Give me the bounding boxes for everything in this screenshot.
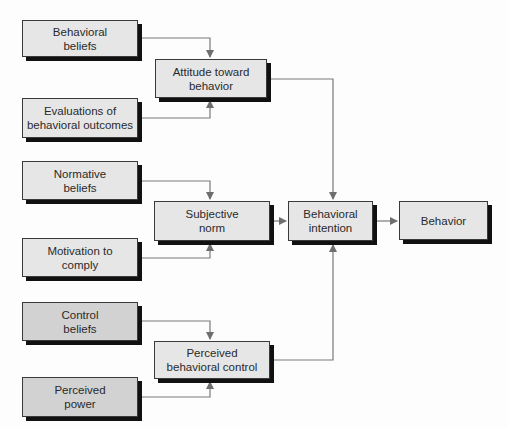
node-label: Motivation to comply [47,244,112,272]
node-label: Perceived behavioral control [167,346,258,374]
node-label: Behavior [421,214,466,228]
node-normative-beliefs: Normative beliefs [22,161,138,200]
edge-pbc-intention [274,245,333,360]
node-label: Normative beliefs [54,167,106,195]
node-attitude: Attitude toward behavior [155,59,267,98]
node-label: Behavioral beliefs [53,25,107,53]
node-behavioral-beliefs: Behavioral beliefs [22,20,138,57]
node-evaluations: Evaluations of behavioral outcomes [22,98,138,138]
node-subjective-norm: Subjective norm [154,201,270,241]
node-label: Control beliefs [61,308,98,336]
edge-motivation-subjective [142,244,210,258]
edge-behavioral-beliefs-attitude [142,38,210,57]
edge-attitude-intention [271,79,333,199]
edge-evaluations-attitude [142,101,210,118]
node-control-beliefs: Control beliefs [22,302,138,341]
node-behavioral-intention: Behavioral intention [288,201,373,241]
node-label: Attitude toward behavior [173,65,250,93]
node-label: Behavioral intention [303,207,357,235]
node-label: Subjective norm [185,207,238,235]
node-motivation: Motivation to comply [22,238,138,277]
node-label: Evaluations of behavioral outcomes [27,104,133,132]
edge-normative-subjective [142,181,210,199]
edge-control-pbc [142,321,210,339]
node-perceived-power: Perceived power [22,377,138,417]
node-label: Perceived power [54,383,105,411]
edge-power-pbc [142,382,210,397]
tpb-diagram: Behavioral beliefs Evaluations of behavi… [0,0,508,427]
node-perceived-behavioral-control: Perceived behavioral control [154,341,270,379]
node-behavior: Behavior [399,201,488,240]
